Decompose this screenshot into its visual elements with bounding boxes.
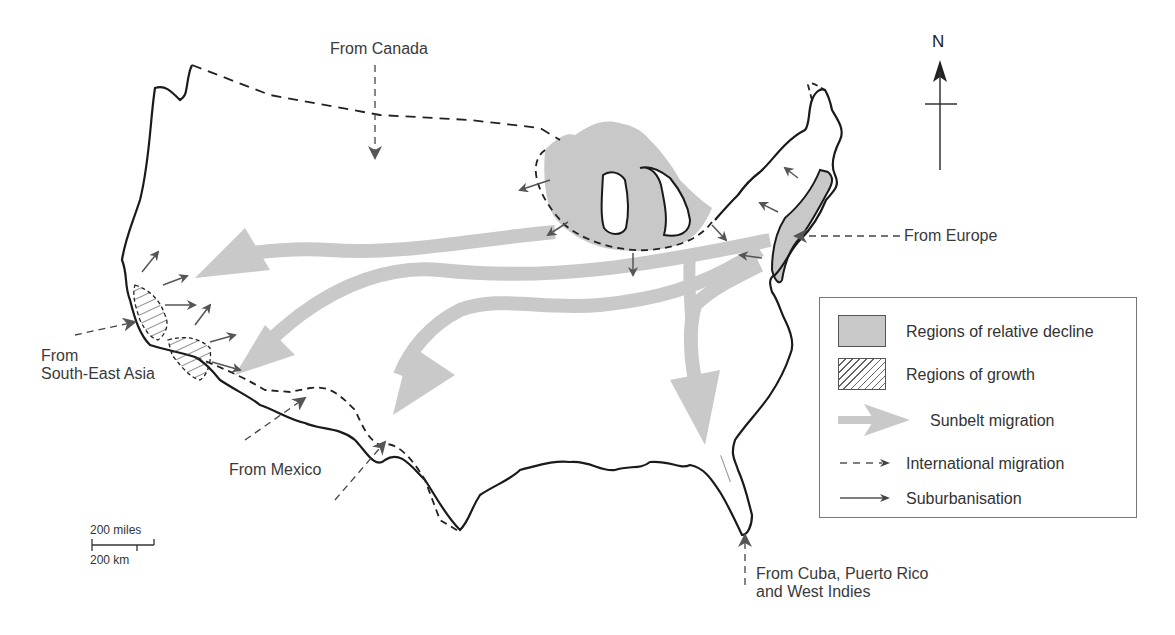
label-from-europe: From Europe (904, 227, 997, 245)
decline-swatch-icon (838, 315, 886, 347)
legend-item-international: International migration (820, 447, 1136, 483)
growth-region-southern-california (168, 338, 211, 380)
scale-bar: 200 miles 200 km (90, 523, 160, 578)
label-from-caribbean-2: and West Indies (756, 583, 870, 601)
legend: Regions of relative decline Regions of g… (819, 297, 1137, 518)
suburbanisation-arrow-icon (838, 488, 898, 508)
growth-region-florida (719, 455, 734, 482)
legend-item-decline: Regions of relative decline (820, 315, 1136, 351)
label-from-se-asia-2: South-East Asia (41, 365, 155, 383)
legend-item-growth: Regions of growth (820, 358, 1136, 394)
label-from-canada: From Canada (330, 40, 428, 58)
legend-item-suburbanisation: Suburbanisation (820, 482, 1136, 518)
decline-region-midwest (544, 122, 712, 251)
label-from-se-asia-1: From (41, 347, 78, 365)
decline-region-northeast (772, 170, 832, 282)
legend-label: Sunbelt migration (930, 412, 1055, 430)
scale-km-label: 200 km (90, 553, 129, 567)
legend-label: Regions of growth (906, 366, 1035, 384)
international-migration-arrows (75, 65, 900, 585)
north-arrow: N (920, 32, 960, 192)
legend-label: Suburbanisation (906, 490, 1022, 508)
scale-miles-label: 200 miles (90, 523, 141, 537)
sunbelt-arrow-icon (838, 400, 918, 440)
north-arrow-icon (920, 32, 960, 192)
growth-swatch-icon (838, 358, 886, 390)
growth-region-northern-california (134, 285, 167, 340)
international-arrow-icon (838, 453, 898, 473)
sunbelt-migration-arrows (240, 232, 770, 395)
legend-label: Regions of relative decline (906, 323, 1094, 341)
label-from-caribbean-1: From Cuba, Puerto Rico (756, 565, 929, 583)
legend-label: International migration (906, 455, 1064, 473)
label-from-mexico: From Mexico (229, 461, 321, 479)
legend-item-sunbelt: Sunbelt migration (820, 404, 1136, 440)
